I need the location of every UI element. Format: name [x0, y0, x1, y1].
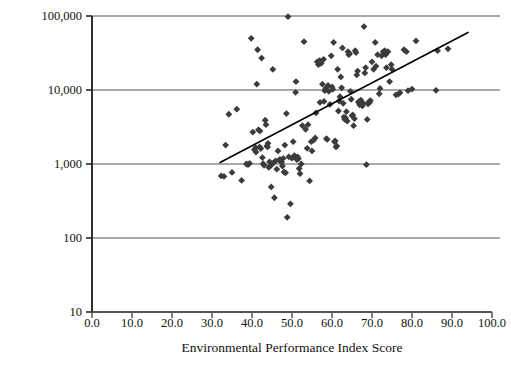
data-point: [253, 81, 260, 88]
data-point: [433, 87, 440, 94]
data-point: [361, 70, 368, 77]
data-point: [335, 108, 342, 115]
y-tick-label: 100,000: [14, 9, 82, 24]
data-point: [293, 78, 300, 85]
data-point: [348, 96, 355, 103]
y-tick-label: 10,000: [14, 83, 82, 98]
data-point: [306, 178, 313, 185]
y-tick-label: 10: [14, 305, 82, 320]
x-tick-label: 20.0: [161, 316, 183, 331]
data-point: [339, 45, 346, 52]
data-point: [330, 39, 337, 46]
gridlines: [92, 16, 500, 312]
data-point: [297, 170, 304, 177]
data-point: [334, 66, 341, 73]
x-tick-label: 100.0: [478, 316, 506, 331]
data-point: [372, 39, 379, 46]
y-tick-label: 100: [14, 231, 82, 246]
data-point: [284, 214, 291, 221]
x-tick-label: 70.0: [361, 316, 383, 331]
data-point: [350, 122, 357, 129]
data-point: [413, 38, 420, 45]
data-point: [363, 161, 370, 168]
y-tick-label: 1,000: [14, 157, 82, 172]
x-tick-label: 10.0: [121, 316, 143, 331]
data-point: [271, 194, 278, 201]
data-point: [269, 66, 276, 73]
data-point: [233, 106, 240, 113]
x-tick-label: 40.0: [241, 316, 263, 331]
data-point: [225, 111, 232, 118]
data-point: [445, 45, 452, 52]
data-point: [376, 90, 383, 97]
x-tick-label: 50.0: [281, 316, 303, 331]
data-point: [377, 85, 384, 92]
scatter-chart-figure: Per Capita Income (2007 Dollars) Environ…: [0, 0, 511, 365]
data-point: [248, 35, 255, 42]
data-point: [268, 184, 275, 191]
data-point: [281, 142, 288, 149]
data-point: [229, 169, 236, 176]
data-point: [337, 74, 344, 81]
x-tick-label: 0.0: [84, 316, 100, 331]
x-tick-label: 30.0: [201, 316, 223, 331]
data-point: [362, 64, 369, 71]
data-point: [273, 166, 280, 173]
x-tick-label: 90.0: [441, 316, 463, 331]
x-axis-title: Environmental Performance Index Score: [92, 340, 492, 356]
data-point: [328, 52, 335, 59]
data-point: [386, 78, 393, 85]
x-tick-label: 60.0: [321, 316, 343, 331]
data-point: [369, 58, 376, 65]
data-point: [287, 200, 294, 207]
data-point: [275, 148, 282, 155]
data-point: [259, 154, 266, 161]
data-point: [361, 23, 368, 30]
data-points: [218, 13, 452, 221]
data-point: [263, 121, 270, 128]
data-point: [364, 116, 371, 123]
data-point: [222, 142, 229, 149]
data-point: [285, 13, 292, 20]
data-point: [301, 38, 308, 45]
data-point: [283, 110, 290, 117]
x-tick-label: 80.0: [401, 316, 423, 331]
data-point: [290, 138, 297, 145]
data-point: [258, 55, 265, 62]
data-point: [254, 46, 261, 53]
data-point: [238, 177, 245, 184]
